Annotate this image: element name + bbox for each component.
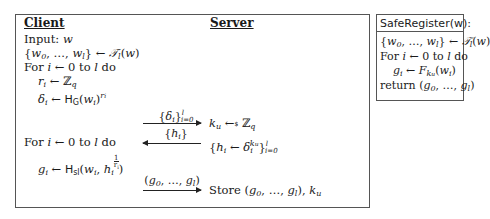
client-step-input: Input: w — [24, 33, 73, 46]
message-arrow-right-2 — [143, 190, 201, 191]
client-step-for-loop-2: For i ← 0 to l do — [24, 136, 116, 149]
safe-register-divider — [377, 31, 463, 32]
message-g-label: (g0, …, gl) — [143, 175, 201, 190]
safe-register-step-split: {w0, …, wl} ← 𝒯l(w) — [380, 35, 490, 51]
server-step-random-k: ku ←$ ℤq — [209, 117, 255, 133]
server-step-h: {hi ← δiku}li=0 — [209, 137, 278, 158]
server-step-store: Store (g0, …, gl), ku — [209, 184, 321, 200]
client-header: Client — [24, 17, 65, 30]
message-arrow-right-1 — [143, 123, 201, 124]
message-arrow-left — [143, 143, 201, 144]
message-h-label: {hi} — [148, 128, 204, 143]
client-step-g: gi ← Hsl(wi, hi1ri) — [38, 155, 123, 179]
client-step-delta: δi ← HG(wi)ri — [38, 89, 106, 109]
client-step-for-loop-1: For i ← 0 to l do — [24, 61, 116, 74]
safe-register-title: SafeRegister(w): — [380, 17, 471, 30]
safe-register-step-g: gi ← Fku(wi) — [393, 64, 456, 80]
safe-register-step-return: return (g0, …, gl) — [380, 79, 474, 95]
server-header: Server — [210, 17, 254, 30]
safe-register-step-for: For i ← 0 to l do — [380, 50, 468, 63]
